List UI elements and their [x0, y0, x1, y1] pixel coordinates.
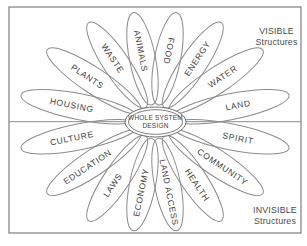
petal-land-access: LAND ACCESS [146, 136, 190, 233]
invisible-label-line2: Structures [254, 216, 296, 226]
petal-economy: ECONOMY [121, 136, 165, 233]
visible-structures-label: VISIBLE Structures [255, 26, 297, 47]
whole-system-design-diagram: LANDWATERENERGYFOODANIMALSWASTEPLANTSHOU… [0, 0, 307, 246]
petal-label: COMMUNITY [195, 146, 249, 187]
petal-animals: ANIMALS [121, 10, 165, 107]
invisible-label-line1: INVISIBLE [253, 205, 297, 215]
petal-label: EDUCATION [61, 147, 113, 186]
petal-label: ENERGY [182, 39, 213, 78]
visible-label-line1: VISIBLE [259, 26, 294, 36]
invisible-structures-label: INVISIBLE Structures [253, 205, 297, 226]
petal-label: LAND [225, 98, 252, 113]
petal-label: PLANTS [69, 62, 106, 91]
petal-label: WATER [206, 63, 239, 90]
center-label-line1: WHOLE SYSTEM [128, 114, 183, 121]
petal-label: LAWS [101, 171, 124, 199]
visible-label-line2: Structures [255, 37, 297, 47]
petal-label: FOOD [161, 37, 176, 66]
petal-food: FOOD [146, 10, 190, 107]
petal-label: CULTURE [49, 129, 95, 147]
petal-label: SPIRIT [222, 130, 255, 146]
center-label-line2: DESIGN [142, 122, 168, 129]
flower-diagram-canvas: LANDWATERENERGYFOODANIMALSWASTEPLANTSHOU… [0, 0, 307, 246]
center-ellipse: WHOLE SYSTEM DESIGN [125, 107, 186, 137]
petal-label: ANIMALS [132, 29, 150, 72]
petal-label: WASTE [99, 42, 126, 75]
petal-energy: ENERGY [154, 15, 232, 114]
petal-label: HOUSING [49, 96, 95, 115]
